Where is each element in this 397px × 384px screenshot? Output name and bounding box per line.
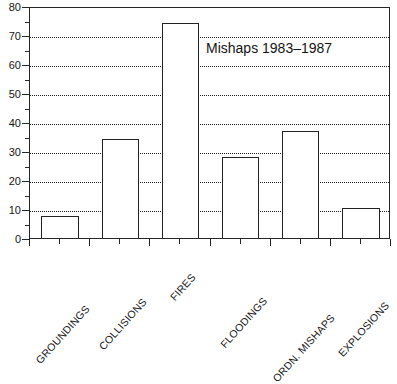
chart-title: Mishaps 1983–1987 xyxy=(206,40,332,56)
x-category-label: ORDN. MISHAPS xyxy=(270,312,336,384)
x-category-label: GROUNDINGS xyxy=(34,303,92,366)
x-tick xyxy=(390,239,391,246)
x-tick xyxy=(330,239,331,246)
x-category-label: COLLISIONS xyxy=(97,296,149,352)
x-category-label: FIRES xyxy=(169,272,199,303)
x-tick xyxy=(210,239,211,246)
x-category-label: EXPLOSIONS xyxy=(336,300,391,359)
x-tick xyxy=(270,239,271,246)
x-tick-minor xyxy=(360,239,361,244)
x-tick-minor xyxy=(119,239,120,244)
x-tick-minor xyxy=(179,239,180,244)
x-tick-minor xyxy=(59,239,60,244)
x-tick-minor xyxy=(240,239,241,244)
x-tick xyxy=(89,239,90,246)
x-tick-minor xyxy=(300,239,301,244)
x-tick xyxy=(149,239,150,246)
x-tick xyxy=(29,239,30,246)
x-category-label: FLOODINGS xyxy=(218,295,269,350)
